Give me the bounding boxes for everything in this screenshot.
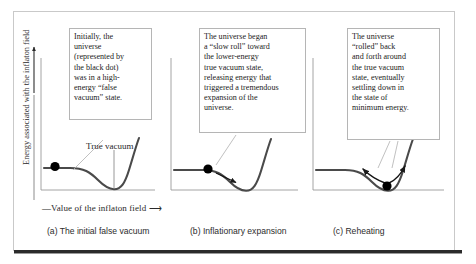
true-vacuum-label: True vacuum xyxy=(86,141,133,151)
callout-panel-b: The universe began a “slow roll” toward … xyxy=(199,28,306,133)
callout-panel-a: Initially, the universe (represented by … xyxy=(69,28,152,120)
callout-panel-c: The universe “rolled” back and forth aro… xyxy=(347,28,440,140)
panel-caption-a: (a) The initial false vacuum xyxy=(47,226,150,236)
inflaton-dot-panel-c xyxy=(382,181,391,190)
roll-arrow-panel-b xyxy=(216,173,236,183)
inflaton-dot-panel-a xyxy=(50,162,59,171)
inflaton-dot-panel-b xyxy=(203,164,212,173)
panel-caption-c: (c) Reheating xyxy=(333,226,385,236)
y-axis-label: Energy associated with the inflaton fiel… xyxy=(22,22,33,172)
x-axis-label: —Value of the inflaton field ⟶ xyxy=(42,203,162,213)
panel-caption-b: (b) Inflationary expansion xyxy=(190,226,287,236)
inflaton-potential-figure: Energy associated with the inflaton fiel… xyxy=(0,0,476,264)
